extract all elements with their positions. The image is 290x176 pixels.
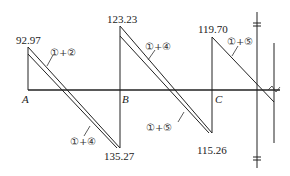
- point-label-c: C: [215, 93, 223, 105]
- value-bc-bottom: 115.26: [197, 144, 227, 156]
- value-b-top: 123.23: [107, 13, 138, 25]
- combo-c-right: ①+⑤: [227, 36, 253, 47]
- combo-bc-top: ①+④: [145, 41, 171, 52]
- leader-bc-bottom: [178, 112, 184, 122]
- value-c-top: 119.70: [198, 23, 228, 35]
- point-label-a: A: [21, 93, 29, 105]
- combo-bc-bottom: ①+⑤: [146, 122, 172, 133]
- ab-diagonal-inner: [28, 54, 117, 148]
- leader-c-right: [232, 46, 238, 56]
- value-a-top: 92.97: [16, 34, 41, 46]
- leader-ab-bottom: [84, 126, 90, 136]
- point-label-b: B: [122, 93, 129, 105]
- ab-diagonal-outer: [28, 47, 120, 148]
- value-ab-bottom: 135.27: [104, 150, 135, 162]
- combo-ab-bottom: ①+④: [70, 136, 96, 147]
- moment-diagram: 92.97 123.23 119.70 135.27 115.26 A B C …: [0, 0, 290, 176]
- combo-ab-top: ①+②: [50, 47, 76, 58]
